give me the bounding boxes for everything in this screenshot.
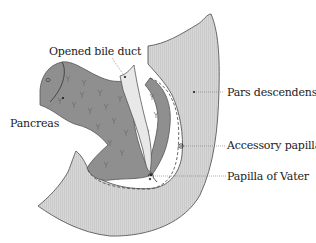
- label-pancreas: Pancreas: [10, 117, 59, 130]
- label-opened-bile-duct: Opened bile duct: [49, 45, 141, 58]
- label-pars-descendens: Pars descendens: [227, 86, 316, 99]
- papilla-of-vater-icon: [148, 173, 157, 182]
- label-accessory-papilla: Accessory papilla: [227, 139, 316, 152]
- label-papilla-of-vater: Papilla of Vater: [227, 170, 309, 183]
- leader-bile-duct: [112, 58, 125, 77]
